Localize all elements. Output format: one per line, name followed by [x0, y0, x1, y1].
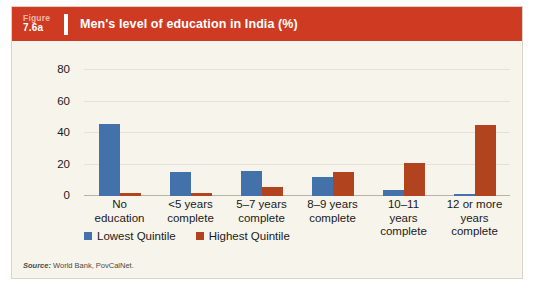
bar-group	[155, 41, 226, 196]
figure-number-label: 7.6a	[23, 23, 64, 34]
figure-header-banner: Figure 7.6a Men's level of education in …	[12, 7, 522, 41]
source-text: World Bank, PovCalNet.	[51, 261, 134, 270]
bars-layer	[84, 41, 510, 196]
bar	[99, 124, 120, 196]
bar	[170, 172, 191, 196]
y-axis: 020406080	[12, 41, 84, 201]
figure-number-block: Figure 7.6a	[12, 14, 64, 33]
bar	[120, 193, 141, 196]
category-label: 10–11yearscomplete	[368, 198, 439, 239]
figure-card: Figure 7.6a Men's level of education in …	[11, 6, 523, 279]
chart-legend: Lowest QuintileHighest Quintile	[84, 230, 324, 242]
y-axis-tick-80: 80	[57, 63, 70, 75]
category-label: 12 or moreyearscomplete	[439, 198, 510, 239]
bar	[191, 193, 212, 196]
bar-group	[368, 41, 439, 196]
bar	[454, 194, 475, 196]
bar	[241, 171, 262, 196]
y-axis-tick-20: 20	[57, 158, 70, 170]
bar	[312, 177, 333, 196]
legend-swatch	[84, 232, 92, 240]
legend-label: Lowest Quintile	[97, 230, 176, 242]
bar	[333, 172, 354, 196]
chart-plot-region: 020406080 Noeducation<5 yearscomplete5–7…	[12, 41, 522, 280]
bar	[404, 163, 425, 196]
bar-group	[297, 41, 368, 196]
source-note: Source: World Bank, PovCalNet.	[23, 261, 134, 270]
y-axis-tick-60: 60	[57, 95, 70, 107]
bar-group	[226, 41, 297, 196]
y-axis-tick-40: 40	[57, 126, 70, 138]
figure-title: Men's level of education in India (%)	[80, 17, 298, 31]
bar-group	[439, 41, 510, 196]
bar-group	[84, 41, 155, 196]
bar	[383, 190, 404, 196]
legend-entry: Highest Quintile	[196, 230, 290, 242]
legend-entry: Lowest Quintile	[84, 230, 176, 242]
legend-swatch	[196, 232, 204, 240]
bar	[475, 125, 496, 196]
bar	[262, 187, 283, 196]
legend-label: Highest Quintile	[209, 230, 290, 242]
source-label: Source:	[23, 261, 51, 270]
header-divider	[64, 14, 68, 35]
y-axis-tick-0: 0	[64, 189, 70, 201]
